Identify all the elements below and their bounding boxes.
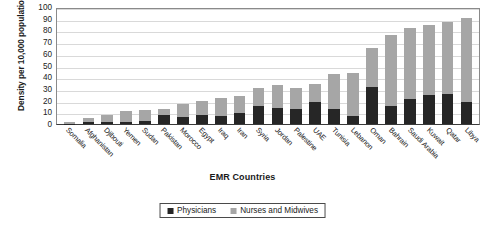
- bar-segment-physicians[interactable]: [404, 99, 416, 124]
- bar-segment-nurses-and-midwives[interactable]: [385, 35, 397, 106]
- bar-segment-nurses-and-midwives[interactable]: [177, 104, 189, 117]
- bar-stack[interactable]: [347, 73, 359, 124]
- y-axis-tick-60: 60: [26, 51, 52, 59]
- bar-stack[interactable]: [423, 25, 435, 124]
- bar-segment-nurses-and-midwives[interactable]: [366, 48, 378, 87]
- bar-segment-physicians[interactable]: [234, 113, 246, 124]
- bar-segment-nurses-and-midwives[interactable]: [328, 74, 340, 109]
- bar-column[interactable]: [363, 9, 382, 124]
- x-axis-tick-column: Iran: [230, 126, 249, 171]
- bar-column[interactable]: [400, 9, 419, 124]
- bar-segment-physicians[interactable]: [461, 102, 473, 124]
- bar-segment-nurses-and-midwives[interactable]: [234, 96, 246, 114]
- bar-column[interactable]: [249, 9, 268, 124]
- x-axis-tick-column: Morocco: [173, 126, 192, 171]
- bar-segment-physicians[interactable]: [442, 94, 454, 124]
- bar-segment-physicians[interactable]: [83, 122, 95, 124]
- legend-item[interactable]: Physicians: [167, 206, 216, 215]
- bar-stack[interactable]: [120, 111, 132, 124]
- bar-segment-nurses-and-midwives[interactable]: [139, 110, 151, 121]
- bar-segment-physicians[interactable]: [347, 116, 359, 124]
- bar-stack[interactable]: [234, 96, 246, 124]
- bar-stack[interactable]: [158, 109, 170, 124]
- bar-segment-physicians[interactable]: [253, 106, 265, 124]
- bar-column[interactable]: [60, 9, 79, 124]
- bar-segment-physicians[interactable]: [101, 122, 113, 124]
- bar-column[interactable]: [325, 9, 344, 124]
- bar-stack[interactable]: [196, 101, 208, 124]
- bar-column[interactable]: [173, 9, 192, 124]
- bar-segment-physicians[interactable]: [309, 102, 321, 124]
- bar-column[interactable]: [79, 9, 98, 124]
- x-axis-tick-column: Yemen: [116, 126, 135, 171]
- bar-segment-nurses-and-midwives[interactable]: [404, 28, 416, 99]
- bar-segment-physicians[interactable]: [120, 122, 132, 124]
- bar-segment-nurses-and-midwives[interactable]: [253, 88, 265, 107]
- bar-stack[interactable]: [215, 98, 227, 124]
- bar-column[interactable]: [419, 9, 438, 124]
- bar-stack[interactable]: [83, 118, 95, 124]
- bar-stack[interactable]: [64, 122, 76, 124]
- y-axis-tick-50: 50: [26, 63, 52, 71]
- bar-column[interactable]: [438, 9, 457, 124]
- bar-segment-nurses-and-midwives[interactable]: [423, 25, 435, 95]
- bar-stack[interactable]: [461, 18, 473, 124]
- bar-stack[interactable]: [404, 28, 416, 124]
- bar-column[interactable]: [98, 9, 117, 124]
- bar-segment-nurses-and-midwives[interactable]: [272, 85, 284, 107]
- bar-segment-physicians[interactable]: [328, 109, 340, 124]
- bar-segment-nurses-and-midwives[interactable]: [461, 18, 473, 102]
- bar-segment-nurses-and-midwives[interactable]: [101, 115, 113, 122]
- bar-segment-physicians[interactable]: [366, 87, 378, 124]
- bar-segment-nurses-and-midwives[interactable]: [196, 101, 208, 115]
- bar-segment-physicians[interactable]: [177, 117, 189, 124]
- bar-column[interactable]: [381, 9, 400, 124]
- bar-segment-physicians[interactable]: [385, 106, 397, 124]
- bar-segment-physicians[interactable]: [158, 115, 170, 124]
- bar-stack[interactable]: [290, 88, 302, 124]
- bar-stack[interactable]: [385, 35, 397, 124]
- bar-column[interactable]: [287, 9, 306, 124]
- bar-segment-nurses-and-midwives[interactable]: [120, 111, 132, 122]
- bar-column[interactable]: [344, 9, 363, 124]
- bar-column[interactable]: [211, 9, 230, 124]
- bar-stack[interactable]: [139, 110, 151, 124]
- legend-label: Physicians: [177, 206, 216, 215]
- bar-segment-physicians[interactable]: [139, 121, 151, 125]
- bar-column[interactable]: [306, 9, 325, 124]
- x-axis-tick-column: Pakistan: [154, 126, 173, 171]
- bar-column[interactable]: [457, 9, 476, 124]
- bar-stack[interactable]: [101, 115, 113, 124]
- x-axis-label: Iraq: [216, 126, 231, 141]
- bar-segment-physicians[interactable]: [215, 116, 227, 124]
- bar-segment-physicians[interactable]: [196, 115, 208, 124]
- bar-segment-nurses-and-midwives[interactable]: [347, 73, 359, 116]
- bar-column[interactable]: [136, 9, 155, 124]
- y-axis-tick-20: 20: [26, 98, 52, 106]
- legend-swatch-icon: [167, 208, 173, 214]
- bar-stack[interactable]: [328, 74, 340, 124]
- bar-column[interactable]: [268, 9, 287, 124]
- bar-segment-nurses-and-midwives[interactable]: [290, 88, 302, 109]
- bar-segment-nurses-and-midwives[interactable]: [442, 22, 454, 93]
- bar-segment-nurses-and-midwives[interactable]: [309, 84, 321, 102]
- bar-stack[interactable]: [253, 88, 265, 124]
- bar-segment-nurses-and-midwives[interactable]: [215, 98, 227, 116]
- bar-segment-physicians[interactable]: [423, 95, 435, 124]
- bar-column[interactable]: [230, 9, 249, 124]
- bar-column[interactable]: [192, 9, 211, 124]
- x-axis-tick-column: Afghanistan: [78, 126, 97, 171]
- y-axis-tick-30: 30: [26, 86, 52, 94]
- stacked-bar-chart: Density per 10,000 population 0102030405…: [0, 0, 485, 229]
- bar-stack[interactable]: [442, 22, 454, 124]
- x-axis-label: Iran: [235, 126, 250, 141]
- bar-stack[interactable]: [366, 48, 378, 124]
- bar-stack[interactable]: [177, 104, 189, 124]
- bar-segment-physicians[interactable]: [272, 108, 284, 124]
- bar-stack[interactable]: [272, 85, 284, 124]
- bar-column[interactable]: [155, 9, 174, 124]
- bar-stack[interactable]: [309, 84, 321, 124]
- bar-segment-physicians[interactable]: [290, 109, 302, 124]
- bar-column[interactable]: [117, 9, 136, 124]
- legend-item[interactable]: Nurses and Midwives: [230, 206, 318, 215]
